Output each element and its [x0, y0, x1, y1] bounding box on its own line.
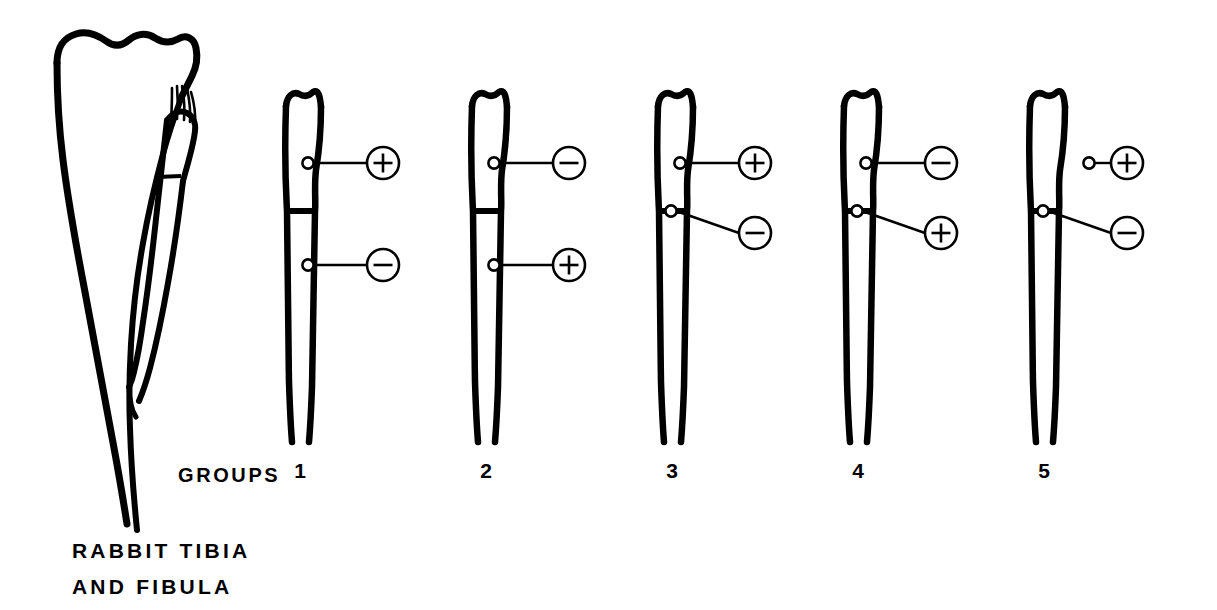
bone-left-cortex	[843, 106, 850, 442]
bone-plateau	[472, 91, 507, 107]
figure-canvas: RABBIT TIBIA AND FIBULA GROUPS 12345	[0, 0, 1217, 610]
bone-left-cortex	[285, 106, 292, 442]
group-number-label: 1	[294, 459, 306, 482]
group-diagram-2: 2	[471, 91, 585, 482]
bone-plateau	[844, 91, 879, 107]
group-diagram-3: 3	[657, 91, 771, 482]
electrode-tip	[488, 157, 499, 168]
bone-right-cortex	[1053, 107, 1065, 442]
caption-line-2: AND FIBULA	[72, 575, 232, 598]
electrode-distal-minus	[1037, 205, 1143, 249]
tibia-left-cortex	[57, 63, 127, 524]
tibia-right-cortex	[129, 96, 182, 530]
electrode-tip	[302, 259, 313, 270]
bone-plateau	[286, 91, 321, 107]
figure-root: RABBIT TIBIA AND FIBULA GROUPS 12345	[0, 0, 1217, 610]
electrode-distal-plus	[851, 205, 957, 249]
bone-plateau	[658, 91, 693, 107]
group-number-label: 5	[1038, 459, 1050, 482]
bone-left-cortex	[1029, 106, 1036, 442]
electrode-proximal-plus	[1083, 147, 1143, 179]
groups-layer: 12345	[285, 91, 1143, 482]
electrode-tip	[1083, 157, 1094, 168]
bone-plateau	[1030, 91, 1065, 107]
fibula-medial-border	[129, 120, 167, 387]
bone-left-cortex	[657, 106, 664, 442]
group-diagram-1: 1	[285, 91, 399, 482]
group-number-label: 4	[852, 459, 864, 482]
rabbit-tibia-fibula-drawing	[57, 33, 197, 530]
group-number-label: 3	[666, 459, 678, 482]
group-diagram-5: 5	[1029, 91, 1143, 482]
electrode-tip	[860, 157, 871, 168]
electrode-tip	[488, 259, 499, 270]
groups-label: GROUPS	[178, 464, 280, 486]
electrode-tip	[851, 205, 862, 216]
bone-left-cortex	[471, 106, 478, 442]
electrode-distal-minus	[665, 205, 771, 249]
electrode-tip	[302, 157, 313, 168]
electrode-tip	[674, 157, 685, 168]
group-diagram-4: 4	[843, 91, 957, 482]
caption-line-1: RABBIT TIBIA	[72, 539, 250, 562]
group-number-label: 2	[480, 459, 492, 482]
electrode-tip	[1037, 205, 1048, 216]
electrode-tip	[665, 205, 676, 216]
